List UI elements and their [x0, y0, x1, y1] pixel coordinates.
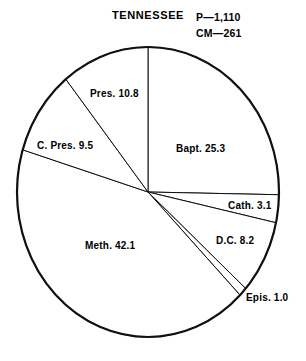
slice-label-dc: D.C. 8.2 [216, 235, 254, 246]
slice-label-c-pres: C. Pres. 9.5 [37, 140, 93, 151]
slice-label-pres: Pres. 10.8 [90, 88, 139, 99]
pie-slice-group [17, 47, 279, 337]
pie-chart-figure: TENNESSEE P—1,110 CM—261 Bapt. 25.3 Cath… [0, 0, 306, 361]
pie-diagram [0, 0, 306, 361]
slice-label-meth: Meth. 42.1 [85, 240, 135, 251]
pie-slice-bapt [148, 47, 279, 195]
slice-label-bapt: Bapt. 25.3 [176, 143, 225, 154]
slice-label-epis: Epis. 1.0 [246, 292, 288, 303]
slice-label-cath: Cath. 3.1 [228, 200, 271, 211]
